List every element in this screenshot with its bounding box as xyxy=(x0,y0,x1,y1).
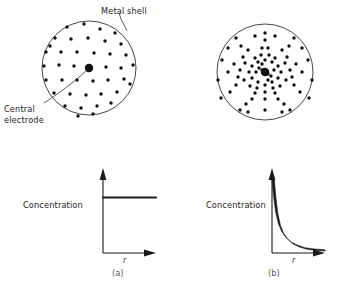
plot-a-axes xyxy=(100,168,156,256)
particle-dot xyxy=(131,63,134,66)
particle-dot xyxy=(292,36,295,39)
particle-dot xyxy=(250,64,253,67)
particle-dot xyxy=(263,83,266,86)
particle-dot xyxy=(243,61,246,64)
particle-dot xyxy=(234,36,237,39)
particle-dot xyxy=(108,52,111,55)
particle-dot xyxy=(306,58,309,61)
particle-dot xyxy=(91,112,94,115)
particle-dot xyxy=(278,84,281,87)
particle-dot xyxy=(63,104,66,107)
central-electrode-label: Central electrode xyxy=(4,104,44,125)
panel-b-diagram xyxy=(216,24,313,120)
particle-dot xyxy=(269,74,272,77)
particle-dot xyxy=(253,91,256,94)
particle-dot xyxy=(255,86,258,89)
particle-dot xyxy=(263,58,266,61)
particle-dot xyxy=(250,76,253,79)
particle-dot xyxy=(219,96,222,99)
particle-dot xyxy=(119,66,122,69)
particle-dot xyxy=(103,39,106,42)
particle-dot xyxy=(84,93,87,96)
particle-dot xyxy=(239,44,242,47)
particle-dot xyxy=(128,82,131,85)
particle-dot xyxy=(267,53,270,56)
particle-dot xyxy=(76,114,79,117)
particle-dot xyxy=(216,78,219,81)
particle-dot xyxy=(273,91,276,94)
particle-dot xyxy=(228,90,231,93)
plot-b-y-axis-label: Concentration xyxy=(206,200,266,211)
particle-dot xyxy=(247,70,250,73)
particle-dot xyxy=(68,92,71,95)
particle-dot xyxy=(288,108,291,111)
particle-dot xyxy=(104,65,107,68)
particle-dot xyxy=(263,108,266,111)
plot-b-x-axis-label: r xyxy=(292,256,295,265)
figure-canvas xyxy=(0,0,339,291)
particle-dot xyxy=(42,64,45,67)
particle-dot xyxy=(256,60,259,63)
particle-dot xyxy=(86,36,89,39)
particle-dot xyxy=(246,48,249,51)
particle-dot xyxy=(124,53,127,56)
particle-dot xyxy=(44,50,47,53)
particle-dot xyxy=(238,108,241,111)
particle-dot xyxy=(79,106,82,109)
particle-dot xyxy=(82,22,85,25)
plot-a-x-axis-label: r xyxy=(123,256,126,265)
caption-b: (b) xyxy=(268,268,280,278)
particle-dot xyxy=(226,46,229,49)
particle-dot xyxy=(92,51,95,54)
particle-dot xyxy=(91,79,94,82)
particle-dot xyxy=(263,38,266,41)
central-electrode-leader-line xyxy=(44,71,86,103)
particle-dot xyxy=(72,64,75,67)
plot-b-data-curve xyxy=(272,177,326,251)
figure-root: Metal shell Central electrode Concentrat… xyxy=(0,0,339,291)
particle-dot xyxy=(276,76,279,79)
particle-dot xyxy=(273,34,276,37)
plot-b-axes xyxy=(269,168,326,256)
panel-a-diagram xyxy=(42,13,136,118)
particle-dot xyxy=(285,55,288,58)
particle-dot xyxy=(294,62,297,65)
plot-a-y-arrowhead xyxy=(100,168,107,180)
particle-dot xyxy=(263,97,266,100)
particle-dot xyxy=(263,31,266,34)
central-electrode-dot-a xyxy=(85,64,93,72)
particle-dot xyxy=(279,70,282,73)
particle-dot xyxy=(273,56,276,59)
particle-dot xyxy=(307,96,310,99)
particle-dot xyxy=(241,55,244,58)
particle-dot xyxy=(271,86,274,89)
particle-dot xyxy=(246,110,249,113)
particle-dot xyxy=(242,78,245,81)
particle-dot xyxy=(300,70,303,73)
particle-dot xyxy=(226,70,229,73)
particle-dot xyxy=(253,34,256,37)
particle-dot xyxy=(52,91,55,94)
particle-dot xyxy=(256,80,259,83)
particle-dot xyxy=(260,46,263,49)
particle-dot xyxy=(259,53,262,56)
particle-dot xyxy=(122,77,125,80)
particle-dot xyxy=(254,70,257,73)
particle-dot xyxy=(280,110,283,113)
particle-dot xyxy=(280,48,283,51)
plot-a-x-arrowhead xyxy=(144,250,156,257)
particle-dot xyxy=(287,44,290,47)
particle-dot xyxy=(238,68,241,71)
particle-dot xyxy=(298,90,301,93)
particle-dot xyxy=(276,64,279,67)
particle-dot xyxy=(248,84,251,87)
particle-dot xyxy=(283,61,286,64)
particle-dot xyxy=(59,50,62,53)
particle-dot xyxy=(276,97,279,100)
plot-a-y-axis-label: Concentration xyxy=(23,200,83,211)
particle-dot xyxy=(270,60,273,63)
particle-dot xyxy=(109,101,112,104)
particle-dot xyxy=(253,56,256,59)
particle-dot xyxy=(95,104,98,107)
particle-dot xyxy=(300,46,303,49)
